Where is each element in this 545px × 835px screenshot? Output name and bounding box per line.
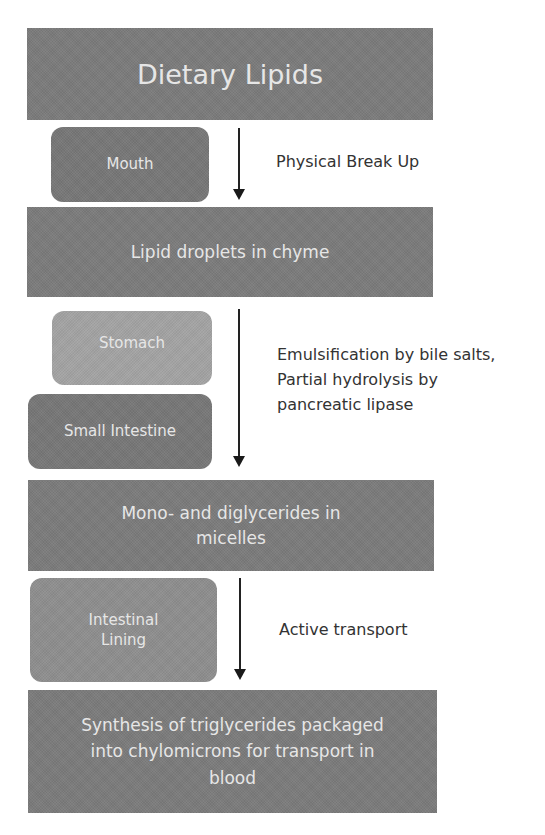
process-physical-break-up: Physical Break Up xyxy=(276,150,516,175)
process-emulsification: Emulsification by bile salts, Partial hy… xyxy=(277,343,517,417)
stage-label: Dietary Lipids xyxy=(137,59,323,90)
location-label: Intestinal Lining xyxy=(70,610,177,651)
arrow-down-icon xyxy=(233,309,245,467)
location-intestinal-lining: Intestinal Lining xyxy=(30,578,217,682)
process-label: Physical Break Up xyxy=(276,152,419,171)
location-small-intestine: Small Intestine xyxy=(28,394,212,469)
location-stomach: Stomach xyxy=(52,311,212,385)
process-active-transport: Active transport xyxy=(279,618,519,643)
stage-label: Synthesis of triglycerides packaged into… xyxy=(72,712,393,791)
arrow-down-icon xyxy=(234,578,246,680)
stage-lipid-droplets: Lipid droplets in chyme xyxy=(27,207,433,297)
stage-label: Lipid droplets in chyme xyxy=(131,242,330,262)
stage-mono-diglycerides: Mono- and diglycerides in micelles xyxy=(28,480,434,571)
stage-synthesis-triglycerides: Synthesis of triglycerides packaged into… xyxy=(28,690,437,813)
location-mouth: Mouth xyxy=(51,127,209,202)
location-label: Mouth xyxy=(106,154,153,174)
process-label: Emulsification by bile salts, Partial hy… xyxy=(277,345,495,414)
arrow-down-icon xyxy=(233,128,245,200)
stage-dietary-lipids: Dietary Lipids xyxy=(27,28,433,120)
process-label: Active transport xyxy=(279,620,408,639)
stage-label: Mono- and diglycerides in micelles xyxy=(98,501,364,550)
location-label: Small Intestine xyxy=(64,421,176,441)
location-label: Stomach xyxy=(99,333,165,353)
